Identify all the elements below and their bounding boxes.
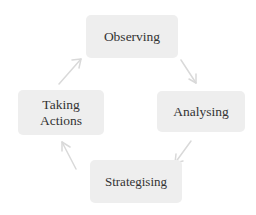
node-strategising-label: Strategising (105, 174, 167, 189)
node-taking-actions[interactable]: Taking Actions (18, 90, 104, 135)
arrow-taking-actions-to-observing (59, 59, 81, 84)
arrow-observing-to-analysing (181, 60, 196, 83)
node-strategising[interactable]: Strategising (90, 160, 182, 203)
node-analysing-label: Analysing (173, 104, 229, 120)
arrow-strategising-to-taking-actions (62, 142, 76, 169)
cycle-diagram: Observing Analysing Strategising Taking … (0, 0, 256, 215)
node-taking-actions-label: Taking Actions (40, 97, 82, 129)
node-observing-label: Observing (104, 29, 160, 45)
node-analysing[interactable]: Analysing (157, 91, 245, 132)
node-observing[interactable]: Observing (86, 15, 178, 58)
